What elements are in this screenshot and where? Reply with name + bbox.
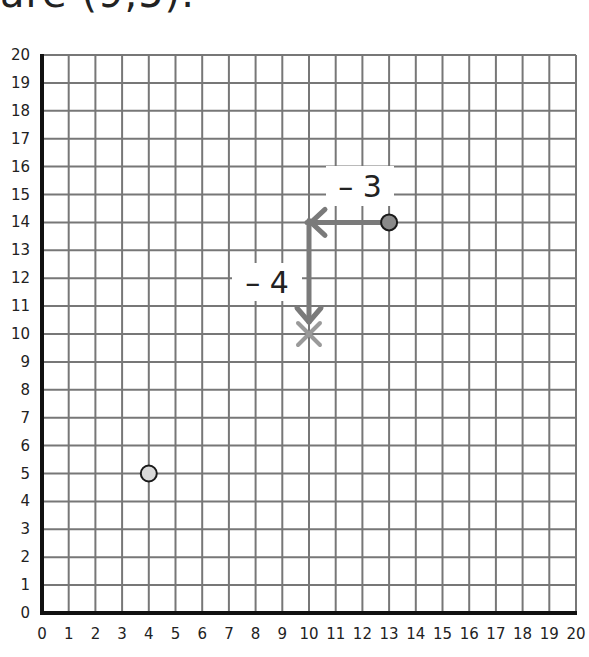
y-tick-label: 3 xyxy=(20,520,30,538)
x-tick-label: 3 xyxy=(117,625,127,643)
translation-label-x: – 3 xyxy=(338,169,382,204)
y-tick-label: 5 xyxy=(20,465,30,483)
x-tick-label: 19 xyxy=(540,625,559,643)
x-tick-label: 17 xyxy=(486,625,505,643)
x-tick-label: 12 xyxy=(353,625,372,643)
y-tick-label: 8 xyxy=(20,381,30,399)
y-tick-label: 4 xyxy=(20,492,30,510)
y-tick-label: 6 xyxy=(20,437,30,455)
y-tick-label: 16 xyxy=(11,158,30,176)
x-tick-label: 4 xyxy=(144,625,154,643)
y-tick-label: 17 xyxy=(11,130,30,148)
x-tick-label: 14 xyxy=(406,625,425,643)
x-tick-label: 0 xyxy=(37,625,47,643)
x-tick-label: 6 xyxy=(197,625,207,643)
y-tick-label: 12 xyxy=(11,269,30,287)
y-tick-label: 19 xyxy=(11,74,30,92)
y-tick-label: 14 xyxy=(11,213,30,231)
y-tick-label: 1 xyxy=(20,576,30,594)
y-tick-label: 0 xyxy=(20,604,30,622)
x-tick-label: 11 xyxy=(326,625,345,643)
translation-label-y: – 4 xyxy=(245,265,289,300)
x-tick-label: 2 xyxy=(91,625,101,643)
coordinate-grid: 0123456789101112131415161718192001234567… xyxy=(0,0,589,657)
x-tick-label: 13 xyxy=(380,625,399,643)
y-tick-label: 9 xyxy=(20,353,30,371)
x-tick-label: 9 xyxy=(278,625,288,643)
x-tick-label: 7 xyxy=(224,625,234,643)
y-tick-label: 18 xyxy=(11,102,30,120)
y-tick-label: 10 xyxy=(11,325,30,343)
x-tick-label: 10 xyxy=(299,625,318,643)
x-tick-label: 8 xyxy=(251,625,261,643)
x-tick-label: 20 xyxy=(566,625,585,643)
y-tick-label: 13 xyxy=(11,241,30,259)
x-tick-label: 16 xyxy=(460,625,479,643)
x-tick-label: 15 xyxy=(433,625,452,643)
x-tick-label: 18 xyxy=(513,625,532,643)
x-tick-label: 5 xyxy=(171,625,181,643)
y-tick-label: 15 xyxy=(11,186,30,204)
x-tick-label: 1 xyxy=(64,625,74,643)
y-tick-label: 2 xyxy=(20,548,30,566)
start-point xyxy=(381,214,397,230)
y-tick-label: 7 xyxy=(20,409,30,427)
other-point xyxy=(141,466,157,482)
y-tick-label: 11 xyxy=(11,297,30,315)
y-tick-label: 20 xyxy=(11,46,30,64)
